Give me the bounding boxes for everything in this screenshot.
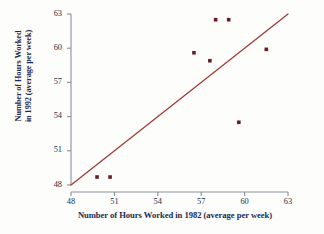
data-point-2 <box>192 51 196 55</box>
data-point-5 <box>227 18 231 22</box>
data-point-3 <box>208 59 212 63</box>
reference-line-group <box>71 14 288 185</box>
scatter-plot-figure: Number of Hours Worked in 1992 (average … <box>0 0 324 234</box>
data-point-7 <box>265 48 269 52</box>
axes-group <box>67 14 288 196</box>
data-point-6 <box>237 121 241 125</box>
plot-canvas <box>0 0 324 234</box>
data-point-4 <box>214 18 218 22</box>
data-point-1 <box>108 175 112 179</box>
reference-line <box>71 14 288 185</box>
data-point-0 <box>95 175 99 179</box>
